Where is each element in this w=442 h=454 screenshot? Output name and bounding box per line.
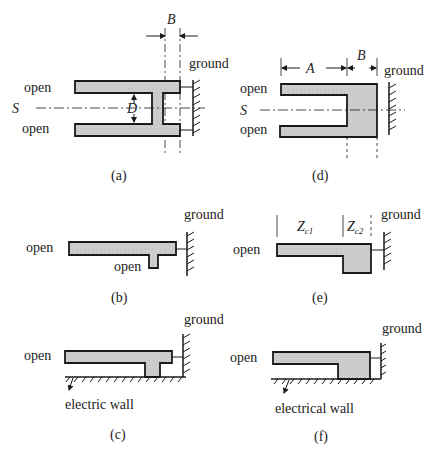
ground-label-e: ground <box>381 207 421 222</box>
open-label-left-c: open <box>24 348 51 363</box>
open-label-top-d: open <box>240 81 267 96</box>
open-label-left-f: open <box>230 350 257 365</box>
impedance-label-zc1: Zc1 <box>297 219 313 236</box>
caption-b: (b) <box>111 290 128 306</box>
impedance-label-zc2: Zc2 <box>347 219 364 236</box>
dim-label-a-length: A <box>305 61 315 76</box>
panel-a: B ground S D open open (a) <box>12 12 229 184</box>
wall-label-c: electric wall <box>65 397 134 412</box>
panel-f: ground open electrical wall (f) <box>230 321 422 445</box>
symmetry-label-a: S <box>12 101 19 116</box>
caption-e: (e) <box>312 290 328 306</box>
caption-d: (d) <box>312 168 329 184</box>
panel-d: A B S ground open open (d) <box>240 48 424 184</box>
ground-label-d: ground <box>384 63 424 78</box>
caption-f: (f) <box>314 429 328 445</box>
stub-shape-d <box>280 84 377 137</box>
open-label-left-e: open <box>233 242 260 257</box>
caption-c: (c) <box>110 427 126 443</box>
dim-label-b-d: B <box>357 48 366 63</box>
ground-label-c: ground <box>184 312 224 327</box>
open-label-stub-b: open <box>114 259 141 274</box>
dim-label-b: B <box>167 12 176 27</box>
panel-c: ground open electric wall (c) <box>24 312 224 443</box>
ground-label-b: ground <box>184 207 224 222</box>
symmetry-label-d: S <box>240 103 247 118</box>
open-label-bottom-a: open <box>22 121 49 136</box>
stub-shape-e <box>277 244 371 273</box>
open-label-left-b: open <box>26 240 53 255</box>
stub-shape-f <box>273 352 370 379</box>
panel-b: ground open open (b) <box>26 207 224 306</box>
wall-label-f: electrical wall <box>275 401 354 416</box>
figure-canvas: B ground S D open open (a) A B <box>0 0 442 454</box>
ground-label-a: ground <box>189 56 229 71</box>
open-label-top-a: open <box>24 80 51 95</box>
stub-shape-c <box>65 351 172 377</box>
panel-e: Zc1 Zc2 ground open (e) <box>233 207 421 306</box>
dim-label-d: D <box>126 101 137 116</box>
open-label-bottom-d: open <box>240 122 267 137</box>
caption-a: (a) <box>111 168 127 184</box>
ground-label-f: ground <box>382 321 422 336</box>
